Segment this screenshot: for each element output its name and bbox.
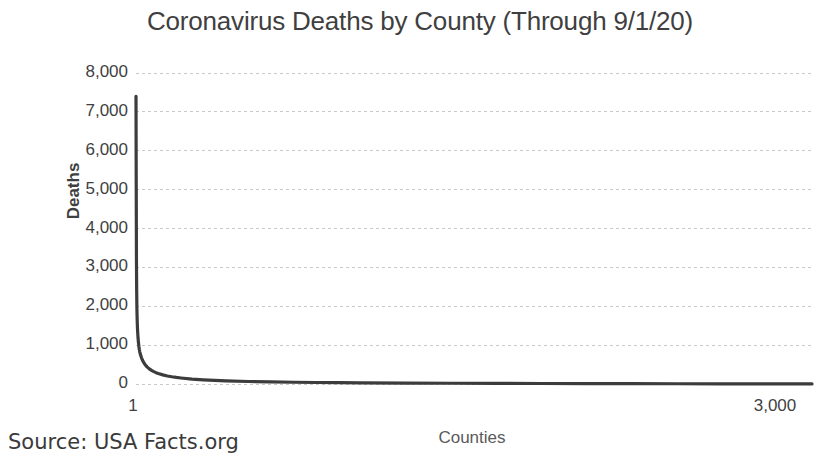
source-note: Source: USA Facts.org	[8, 430, 239, 454]
y-tick-label: 6,000	[32, 140, 128, 160]
y-tick-label: 3,000	[32, 256, 128, 276]
y-tick-label: 8,000	[32, 62, 128, 82]
y-tick-label: 1,000	[32, 334, 128, 354]
gridlines	[136, 73, 812, 384]
x-tick-label: 3,000	[715, 396, 835, 416]
deaths-series-line	[136, 96, 812, 384]
chart-figure: Coronavirus Deaths by County (Through 9/…	[0, 0, 840, 476]
y-tick-label: 7,000	[32, 101, 128, 121]
x-axis-title: Counties	[372, 428, 572, 448]
y-tick-label: 0	[32, 373, 128, 393]
x-tick-label: 1	[73, 396, 193, 416]
y-tick-label: 4,000	[32, 218, 128, 238]
y-tick-label: 2,000	[32, 295, 128, 315]
y-tick-label: 5,000	[32, 179, 128, 199]
